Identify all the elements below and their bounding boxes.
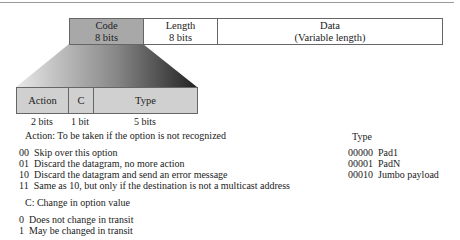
action-title: Action: To be taken if the option is not… (25, 130, 226, 142)
field-action: Action (16, 87, 69, 114)
field-c-name: C (69, 95, 93, 107)
change-item: 1 May be changed in transit (19, 225, 133, 237)
field-data: Data (Variable length) (217, 18, 443, 45)
field-length: Length 8 bits (143, 18, 218, 45)
change-title: C: Change in option value (25, 197, 130, 209)
field-c: C (68, 87, 94, 114)
c-size: 1 bit (71, 116, 89, 128)
field-length-size: 8 bits (144, 32, 217, 44)
action-size: 2 bits (31, 116, 53, 128)
field-code-name: Code (70, 20, 143, 32)
field-code-size: 8 bits (70, 32, 143, 44)
field-code: Code 8 bits (69, 18, 144, 45)
field-data-name: Data (218, 20, 442, 32)
field-data-size: (Variable length) (218, 32, 442, 44)
action-item: 11 Same as 10, but only if the destinati… (19, 180, 290, 192)
type-size: 5 bits (134, 116, 156, 128)
type-item: 00010 Jumbo payload (348, 169, 439, 181)
type-title: Type (352, 131, 372, 143)
field-action-name: Action (17, 95, 68, 107)
field-type-name: Type (94, 95, 197, 107)
field-type: Type (93, 87, 198, 114)
field-length-name: Length (144, 20, 217, 32)
